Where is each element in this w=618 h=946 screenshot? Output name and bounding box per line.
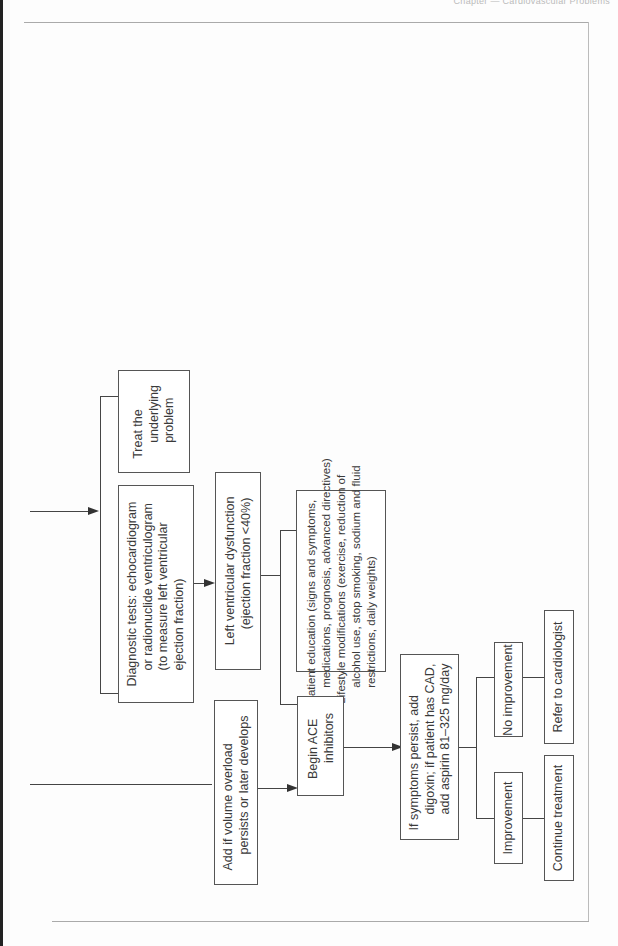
branch-spine-1 (100, 396, 101, 694)
improvement-text: Improvement (501, 782, 517, 855)
lv-branch-spine (280, 530, 281, 705)
branch-to-no-improvement (476, 677, 494, 678)
arrow-head (88, 507, 99, 515)
treat-underlying-text: Treat the underlying problem (131, 385, 178, 459)
box-add-volume-overload: Add if volume overload persists or later… (214, 700, 258, 885)
improvement-to-continue (523, 818, 545, 819)
branch-to-education (280, 530, 296, 531)
continue-treatment-text: Continue treatment (551, 765, 567, 871)
box-refer-cardiologist: Refer to cardiologist (544, 610, 574, 744)
diagnostic-tests-text: Diagnostic tests: echocardiogram or radi… (125, 502, 187, 687)
box-symptoms-persist: If symptoms persist, add digoxin; if pat… (400, 654, 459, 840)
page-binding-edge (0, 0, 3, 946)
frame-top-rule (24, 22, 588, 23)
box-improvement: Improvement (494, 772, 523, 864)
entry-arrow-line (30, 511, 92, 512)
arrow-head (204, 579, 215, 587)
refer-cardiologist-text: Refer to cardiologist (551, 621, 567, 732)
branch-to-ace (280, 704, 298, 705)
begin-ace-text: Begin ACE inhibitors (305, 713, 336, 779)
box-continue-treatment: Continue treatment (544, 755, 574, 881)
frame-right-rule (588, 22, 589, 922)
box-diagnostic-tests: Diagnostic tests: echocardiogram or radi… (118, 485, 194, 703)
frame-bottom-rule (52, 921, 589, 922)
box-no-improvement: No improvement (494, 642, 523, 737)
box-treat-underlying: Treat the underlying problem (118, 370, 190, 473)
branch-to-improvement (476, 818, 494, 819)
patient-education-text: Patient education (signs and symptoms, m… (304, 458, 379, 703)
lv-dysfunction-text: Left ventricular dysfunction (ejection f… (223, 497, 254, 646)
running-header: Chapter — Cardiovascular Problems (454, 0, 610, 6)
arrow-volume-to-ace-line (258, 788, 290, 789)
entry-arrow-2-line (30, 784, 212, 785)
box-lv-dysfunction: Left ventricular dysfunction (ejection f… (215, 472, 261, 670)
no-improvement-to-refer (523, 677, 545, 678)
lv-branch-stem (261, 575, 281, 576)
add-volume-text: Add if volume overload persists or later… (221, 715, 252, 870)
no-improvement-text: No improvement (501, 644, 517, 736)
branch-to-diagnostic (100, 693, 118, 694)
arrow-ace-to-symptoms-line (344, 747, 396, 748)
outcome-branch-stem (459, 747, 477, 748)
symptoms-persist-text: If symptoms persist, add digoxin; if pat… (406, 664, 453, 831)
branch-to-treat (100, 396, 118, 397)
outcome-branch-spine (476, 677, 477, 819)
box-patient-education: Patient education (signs and symptoms, m… (296, 490, 386, 672)
box-begin-ace: Begin ACE inhibitors (297, 696, 344, 796)
